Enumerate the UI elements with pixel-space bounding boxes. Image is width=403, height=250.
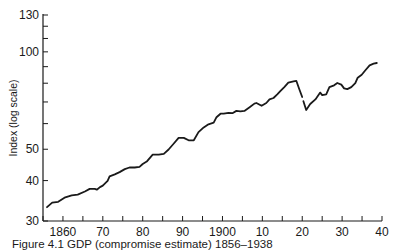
y-tick-label: 40	[26, 174, 40, 188]
x-tick-label: 90	[176, 225, 190, 239]
y-tick-label: 130	[19, 8, 39, 22]
x-tick-label: 80	[136, 225, 150, 239]
x-tick-label: 1860	[50, 225, 77, 239]
x-tick-label: 1900	[209, 225, 236, 239]
x-tick-label: 30	[335, 225, 349, 239]
y-axis: 304050100130	[19, 8, 48, 228]
gdp-line	[47, 81, 302, 207]
figure-caption: Figure 4.1 GDP (compromise estimate) 185…	[12, 238, 273, 250]
x-tick-label: 40	[375, 225, 389, 239]
x-tick-label: 10	[256, 225, 270, 239]
y-tick-label: 100	[19, 45, 39, 59]
x-tick-label: 20	[296, 225, 310, 239]
y-tick-label: 30	[26, 214, 40, 228]
gdp-line	[303, 63, 376, 110]
y-tick-label: 50	[26, 142, 40, 156]
x-axis: 1860708090190010203040	[43, 216, 389, 239]
x-tick-label: 70	[96, 225, 110, 239]
y-axis-title: Index (log scale)	[7, 79, 19, 156]
plot-area	[47, 63, 377, 207]
